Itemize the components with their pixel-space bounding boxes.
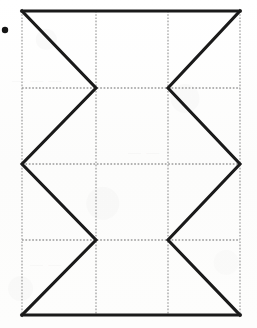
bullet-marker-icon bbox=[2, 27, 8, 33]
left-zigzag-polyline bbox=[22, 11, 96, 315]
grid-lines-group bbox=[22, 11, 240, 315]
zigzag-grid-diagram bbox=[0, 0, 257, 328]
figure-container: — — — — — — — bbox=[0, 0, 257, 328]
solid-figure-group bbox=[22, 11, 240, 315]
right-zigzag-polyline bbox=[168, 11, 240, 315]
